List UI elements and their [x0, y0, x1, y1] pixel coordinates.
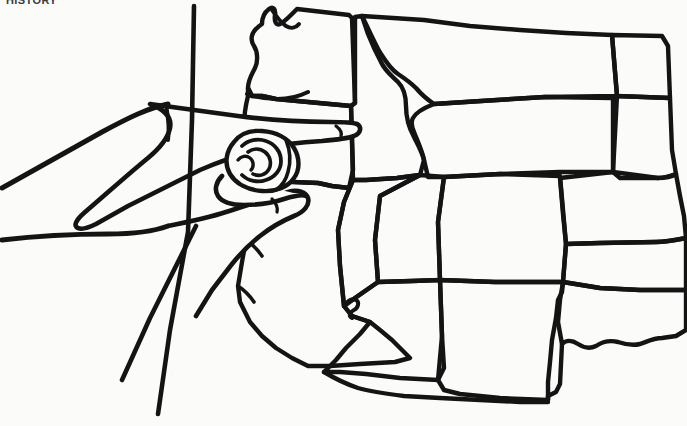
state-idaho [351, 16, 424, 180]
state-new-mexico [438, 280, 563, 400]
state-north-dakota [612, 35, 670, 98]
state-colorado [438, 174, 566, 282]
state-south-dakota [613, 96, 676, 178]
state-washington [248, 8, 355, 106]
state-kansas [563, 238, 686, 290]
pointing-hand [2, 104, 360, 316]
state-wyoming [412, 97, 613, 177]
scanned-page: HISTORY [0, 0, 687, 426]
map-illustration [0, 0, 687, 426]
state-nevada [338, 175, 420, 306]
line-drawing-svg [0, 0, 687, 426]
oregon-coast-line [247, 92, 308, 99]
state-nebraska [560, 172, 686, 244]
stray-ink-marks [122, 6, 196, 414]
stray-stroke-vertical [158, 6, 194, 414]
state-montana [362, 16, 617, 104]
state-oklahoma-panhandle [558, 282, 686, 348]
